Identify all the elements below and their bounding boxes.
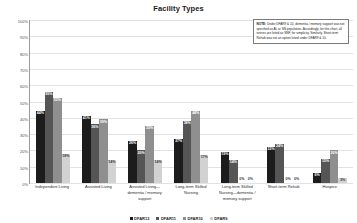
y-axis-tick: 20% [20,149,28,154]
bar-value-label: 38% [184,121,191,126]
bar: 20% [330,150,339,183]
y-axis-tick: 0% [22,182,28,187]
bar-value-label: 19% [221,152,228,157]
bar: 41% [82,116,91,183]
bar: 20% [137,150,146,183]
bar: 15% [321,159,330,183]
bar: 26% [128,141,137,183]
y-axis-tick: 40% [20,116,28,121]
bar-value-label: 44% [192,111,199,116]
y-axis-tick: 80% [20,51,28,56]
bar-value-label: 35% [146,126,153,131]
y-axis-tick: 90% [20,35,28,40]
bar-value-label: 36% [91,124,98,129]
bar-group: 19%14%0%0% [215,20,261,183]
bar-group: 41%36%39%14% [76,20,122,183]
bar: 19% [221,152,230,183]
bar-value-label: 26% [129,141,136,146]
bar-value-label: 22% [267,147,274,152]
bar-value-label: 52% [54,98,61,103]
legend-item[interactable]: DFAR12 [130,216,150,221]
legend-label: DFAR10 [188,216,203,221]
y-axis-tick: 50% [20,100,28,105]
bar-value-label: 39% [100,119,107,124]
bar: 38% [183,121,192,183]
x-axis-category-label: Hospice [307,184,353,220]
bar-value-label: 0% [285,178,290,183]
bar: 44% [191,111,200,183]
bar-group: 22%24%0%0% [261,20,307,183]
bar: 22% [267,147,276,183]
bar-value-label: 14% [154,160,161,165]
note-prefix: NOTE: [257,22,267,26]
x-axis-category-label: Long-term Skilled Nursing—dementia / mem… [214,184,260,220]
bar-value-label: 3% [340,178,345,183]
y-axis-tick: 100% [18,19,28,24]
legend-item[interactable]: DFAR11 [156,216,176,221]
bar-value-label: 44% [37,111,44,116]
bar-groups: 44%56%52%18%41%36%39%14%26%20%35%14%27%3… [30,20,353,183]
bar: 52% [53,98,62,183]
bar-group: 26%20%35%14% [122,20,168,183]
bar: 14% [108,160,117,183]
bar-value-label: 15% [322,159,329,164]
bar-value-label: 14% [230,160,237,165]
x-axis-category-label: Independent Living [29,184,75,220]
legend-item[interactable]: DFAR10 [183,216,203,221]
bar-value-label: 20% [331,150,338,155]
note-body: Under DFAR9 & 10, dementia / memory supp… [257,22,345,40]
bar: 35% [145,126,154,183]
bar: 36% [91,124,100,183]
bar-value-label: 27% [175,139,182,144]
x-axis-category-label: Long-term Skilled Nursing [168,184,214,220]
bar: 39% [99,119,108,183]
bar: 18% [62,154,71,183]
facility-types-chart: Facility Types Percentage of Submissions… [0,0,357,223]
bar-value-label: 0% [239,178,244,183]
bar-value-label: 14% [108,160,115,165]
bar: 56% [45,92,54,183]
bar-value-label: 24% [276,144,283,149]
bar-value-label: 20% [137,150,144,155]
bar-value-label: 56% [45,92,52,97]
bar-value-label: 41% [83,116,90,121]
bar: 27% [174,139,183,183]
bar: 17% [200,155,209,183]
legend-label: DFAR9 [214,216,227,221]
bar-value-label: 6% [315,173,320,178]
y-axis-tick: 10% [20,165,28,170]
bar: 3% [338,178,347,183]
legend-label: DFAR11 [161,216,176,221]
x-axis-category-label: Short-term Rehab [260,184,306,220]
x-axis-category-label: Assisted Living [75,184,121,220]
y-axis-tick: 30% [20,133,28,138]
bar-group: 6%15%20%3% [307,20,353,183]
note-text: NOTE: Under DFAR9 & 10, dementia / memor… [257,22,346,41]
bar-value-label: 18% [62,154,69,159]
bar-group: 44%56%52%18% [30,20,76,183]
plot-area: 100%90%80%70%60%50%40%30%20%10%0% 44%56%… [29,20,353,184]
y-axis-tick: 70% [20,67,28,72]
legend-swatch-icon [156,217,159,220]
bar-group: 27%38%44%17% [168,20,214,183]
chart-title: Facility Types [0,4,357,13]
bar: 44% [36,111,45,183]
y-axis-tick: 60% [20,84,28,89]
chart-legend: DFAR12DFAR11DFAR10DFAR9 [0,216,357,221]
bar-value-label: 0% [248,178,253,183]
bar: 14% [229,160,238,183]
bar: 14% [154,160,163,183]
x-axis-category-label: Assisted Living—dementia / memory suppor… [122,184,168,220]
legend-swatch-icon [210,217,213,220]
legend-label: DFAR12 [134,216,149,221]
legend-item[interactable]: DFAR9 [210,216,228,221]
bar-value-label: 0% [294,178,299,183]
legend-swatch-icon [183,217,186,220]
bar-value-label: 17% [201,155,208,160]
x-axis-labels: Independent LivingAssisted LivingAssiste… [29,184,353,220]
note-box: NOTE: Under DFAR9 & 10, dementia / memor… [253,19,349,44]
legend-swatch-icon [130,217,133,220]
bar: 24% [275,144,284,183]
bar: 6% [313,173,322,183]
